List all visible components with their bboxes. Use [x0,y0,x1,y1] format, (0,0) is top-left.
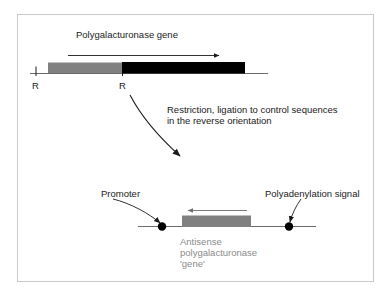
antisense-caption-line-2: polygalacturonase [180,247,257,258]
restriction-site-label-left: R [32,80,39,91]
process-caption-line-2: in the reverse orientation [167,115,272,126]
figure-root: Polygalacturonase gene R R Restriction, … [0,0,392,296]
gene-title-label: Polygalacturonase gene [76,29,178,40]
restriction-site-label-right: R [119,80,126,91]
antisense-caption-line-3: 'gene' [180,258,205,269]
polyadenylation-signal-label: Polyadenylation signal [265,188,360,199]
promoter-label: Promoter [101,188,140,199]
antisense-gene-caption: Antisensepolygalacturonase'gene' [180,236,257,270]
antisense-caption-line-1: Antisense [180,236,222,247]
process-caption: Restriction, ligation to control sequenc… [167,104,338,126]
process-caption-line-1: Restriction, ligation to control sequenc… [167,104,338,115]
